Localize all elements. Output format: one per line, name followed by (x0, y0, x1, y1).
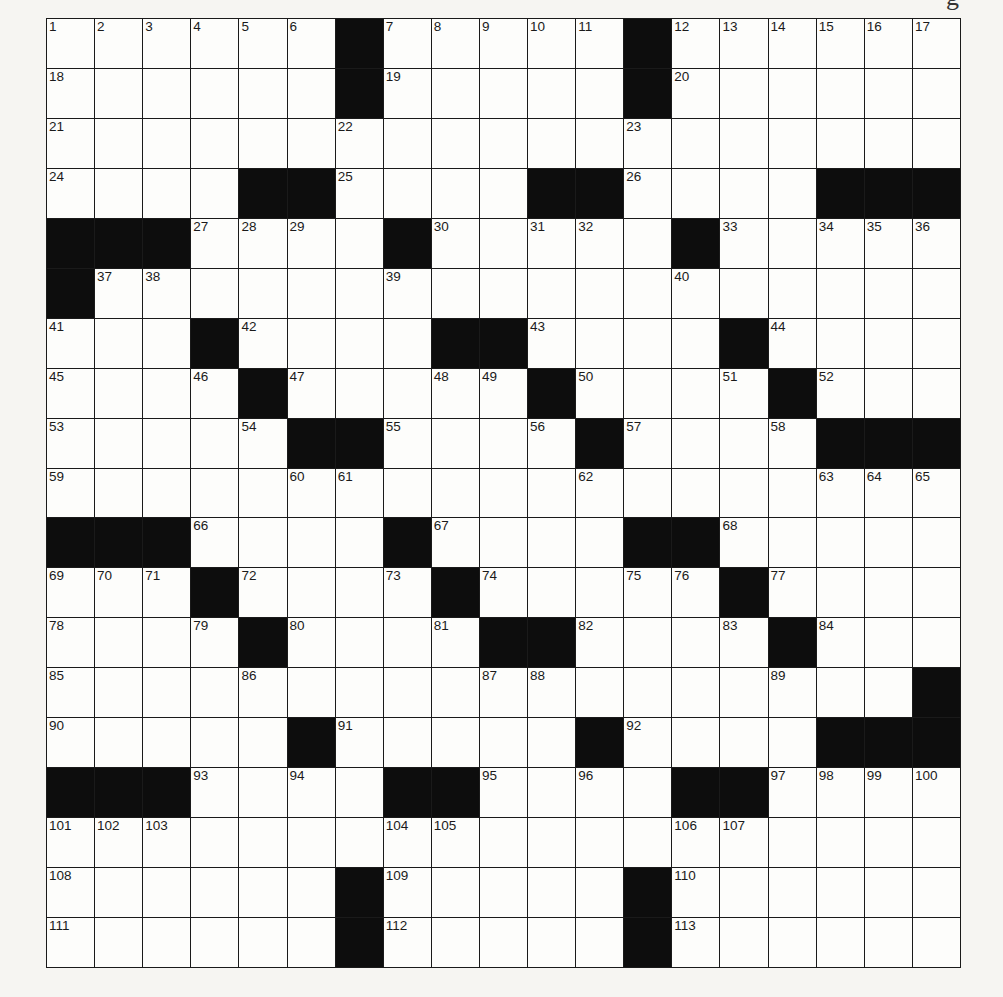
answer-cell[interactable] (817, 269, 864, 318)
answer-cell[interactable] (913, 518, 960, 567)
answer-cell[interactable] (528, 469, 575, 518)
answer-cell[interactable] (191, 119, 238, 168)
answer-cell[interactable]: 38 (143, 269, 190, 318)
answer-cell[interactable] (865, 918, 912, 967)
answer-cell[interactable] (191, 718, 238, 767)
answer-cell[interactable] (624, 319, 671, 368)
answer-cell[interactable] (288, 269, 335, 318)
answer-cell[interactable] (336, 219, 383, 268)
answer-cell[interactable]: 4 (191, 19, 238, 68)
answer-cell[interactable] (672, 618, 719, 667)
answer-cell[interactable] (95, 668, 142, 717)
answer-cell[interactable] (865, 518, 912, 567)
answer-cell[interactable]: 41 (47, 319, 94, 368)
answer-cell[interactable]: 98 (817, 768, 864, 817)
answer-cell[interactable]: 19 (384, 69, 431, 118)
answer-cell[interactable]: 111 (47, 918, 94, 967)
answer-cell[interactable]: 63 (817, 469, 864, 518)
answer-cell[interactable]: 22 (336, 119, 383, 168)
answer-cell[interactable] (720, 918, 767, 967)
answer-cell[interactable] (576, 668, 623, 717)
answer-cell[interactable]: 83 (720, 618, 767, 667)
answer-cell[interactable] (480, 219, 527, 268)
answer-cell[interactable] (143, 369, 190, 418)
answer-cell[interactable]: 16 (865, 19, 912, 68)
answer-cell[interactable] (143, 169, 190, 218)
answer-cell[interactable] (480, 718, 527, 767)
answer-cell[interactable] (480, 469, 527, 518)
answer-cell[interactable] (432, 868, 479, 917)
answer-cell[interactable]: 104 (384, 818, 431, 867)
answer-cell[interactable] (336, 618, 383, 667)
answer-cell[interactable]: 68 (720, 518, 767, 567)
answer-cell[interactable] (720, 269, 767, 318)
answer-cell[interactable]: 32 (576, 219, 623, 268)
answer-cell[interactable]: 59 (47, 469, 94, 518)
answer-cell[interactable] (336, 518, 383, 567)
answer-cell[interactable]: 52 (817, 369, 864, 418)
answer-cell[interactable]: 88 (528, 668, 575, 717)
answer-cell[interactable] (720, 469, 767, 518)
answer-cell[interactable] (913, 868, 960, 917)
answer-cell[interactable] (528, 119, 575, 168)
answer-cell[interactable] (720, 668, 767, 717)
answer-cell[interactable] (384, 618, 431, 667)
answer-cell[interactable] (143, 718, 190, 767)
answer-cell[interactable]: 94 (288, 768, 335, 817)
answer-cell[interactable]: 30 (432, 219, 479, 268)
answer-cell[interactable]: 47 (288, 369, 335, 418)
answer-cell[interactable] (865, 818, 912, 867)
answer-cell[interactable] (769, 918, 816, 967)
answer-cell[interactable] (191, 419, 238, 468)
answer-cell[interactable] (576, 918, 623, 967)
answer-cell[interactable] (191, 918, 238, 967)
answer-cell[interactable]: 72 (239, 568, 286, 617)
answer-cell[interactable]: 45 (47, 369, 94, 418)
answer-cell[interactable] (672, 718, 719, 767)
answer-cell[interactable] (817, 518, 864, 567)
answer-cell[interactable]: 70 (95, 568, 142, 617)
answer-cell[interactable]: 90 (47, 718, 94, 767)
answer-cell[interactable] (817, 119, 864, 168)
answer-cell[interactable] (720, 119, 767, 168)
answer-cell[interactable] (913, 269, 960, 318)
answer-cell[interactable] (672, 119, 719, 168)
answer-cell[interactable] (239, 768, 286, 817)
answer-cell[interactable]: 69 (47, 568, 94, 617)
answer-cell[interactable]: 99 (865, 768, 912, 817)
answer-cell[interactable]: 3 (143, 19, 190, 68)
answer-cell[interactable] (576, 319, 623, 368)
answer-cell[interactable] (576, 269, 623, 318)
answer-cell[interactable] (528, 768, 575, 817)
answer-cell[interactable] (95, 69, 142, 118)
answer-cell[interactable] (143, 868, 190, 917)
answer-cell[interactable] (672, 319, 719, 368)
answer-cell[interactable]: 71 (143, 568, 190, 617)
answer-cell[interactable]: 57 (624, 419, 671, 468)
answer-cell[interactable]: 48 (432, 369, 479, 418)
answer-cell[interactable] (576, 568, 623, 617)
answer-cell[interactable] (720, 69, 767, 118)
answer-cell[interactable] (432, 918, 479, 967)
answer-cell[interactable] (432, 469, 479, 518)
answer-cell[interactable]: 82 (576, 618, 623, 667)
answer-cell[interactable] (336, 369, 383, 418)
answer-cell[interactable]: 18 (47, 69, 94, 118)
answer-cell[interactable]: 2 (95, 19, 142, 68)
answer-cell[interactable] (865, 618, 912, 667)
answer-cell[interactable] (336, 768, 383, 817)
answer-cell[interactable] (191, 469, 238, 518)
answer-cell[interactable] (143, 918, 190, 967)
answer-cell[interactable] (480, 818, 527, 867)
answer-cell[interactable] (384, 469, 431, 518)
answer-cell[interactable] (480, 169, 527, 218)
answer-cell[interactable] (432, 668, 479, 717)
answer-cell[interactable]: 23 (624, 119, 671, 168)
answer-cell[interactable] (769, 219, 816, 268)
answer-cell[interactable]: 28 (239, 219, 286, 268)
answer-cell[interactable]: 91 (336, 718, 383, 767)
answer-cell[interactable] (720, 718, 767, 767)
answer-cell[interactable]: 80 (288, 618, 335, 667)
answer-cell[interactable] (817, 868, 864, 917)
answer-cell[interactable]: 92 (624, 718, 671, 767)
